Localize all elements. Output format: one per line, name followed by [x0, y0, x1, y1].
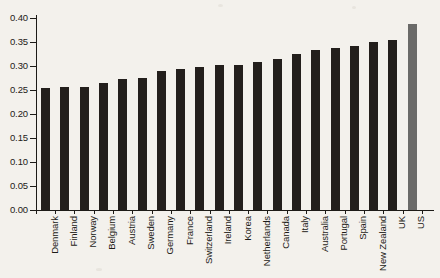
x-axis-category-label: Finland: [69, 216, 79, 246]
x-axis-tick: [403, 210, 404, 214]
x-axis-tick: [55, 210, 56, 214]
scan-artifact: [218, 4, 223, 7]
bar: [273, 59, 282, 210]
x-axis-category-label: Germany: [165, 216, 175, 254]
x-axis-tick: [248, 210, 249, 214]
bar: [369, 42, 378, 210]
x-axis-category-label: Spain: [358, 216, 368, 240]
x-axis-tick: [306, 210, 307, 214]
scan-artifact: [352, 6, 356, 9]
y-axis-tick-label: 0.15: [10, 133, 28, 143]
bar: [99, 83, 108, 210]
x-axis-tick: [287, 210, 288, 214]
x-axis-category-label: Italy: [300, 216, 310, 233]
x-axis-category-label: Denmark: [50, 216, 60, 254]
x-axis-category-label: Portugal: [339, 216, 349, 251]
bar-series: [36, 18, 434, 210]
bar: [157, 71, 166, 210]
bar: [253, 62, 262, 210]
x-axis-tick: [113, 210, 114, 214]
bar: [350, 46, 359, 210]
x-axis-category-label: Ireland: [223, 216, 233, 244]
x-axis-category-label: Netherlands: [262, 216, 272, 266]
x-axis-category-label: France: [185, 216, 195, 245]
scan-artifact: [96, 268, 102, 271]
bar: [311, 50, 320, 210]
x-axis-tick: [171, 210, 172, 214]
x-axis-tick: [345, 210, 346, 214]
y-axis-tick-label: 0.20: [10, 109, 28, 119]
bar: [388, 40, 397, 210]
x-axis-tick: [267, 210, 268, 214]
bar-chart: 0.000.050.100.150.200.250.300.350.40 Den…: [0, 0, 440, 278]
x-axis-category-label: Korea: [243, 216, 253, 241]
y-axis-tick-label: 0.25: [10, 85, 28, 95]
x-axis-tick: [94, 210, 95, 214]
bar: [234, 65, 243, 210]
x-axis-tick: [132, 210, 133, 214]
y-axis-tick-label: 0.00: [10, 205, 28, 215]
x-axis-tick: [36, 210, 37, 214]
x-axis-tick: [229, 210, 230, 214]
x-axis-category-label: Norway: [88, 216, 98, 248]
x-axis-tick: [422, 210, 423, 214]
bar: [195, 67, 204, 210]
x-axis-category-label: Switzerland: [204, 216, 214, 264]
x-axis-category-label: US: [416, 216, 426, 229]
bar: [118, 79, 127, 210]
x-axis-category-label: New Zealand: [378, 216, 388, 271]
y-axis-tick-label: 0.05: [10, 181, 28, 191]
x-axis-tick: [210, 210, 211, 214]
x-axis-category-label: Canada: [281, 216, 291, 249]
x-axis-tick: [383, 210, 384, 214]
bar: [292, 54, 301, 210]
x-axis-tick: [152, 210, 153, 214]
x-axis-category-label: UK: [397, 216, 407, 229]
x-axis-category-label: Austria: [127, 216, 137, 245]
x-axis-tick: [364, 210, 365, 214]
y-axis-tick-label: 0.10: [10, 157, 28, 167]
y-axis-tick-label: 0.40: [10, 13, 28, 23]
bar: [408, 24, 417, 210]
x-axis-category-label: Australia: [320, 216, 330, 252]
bar: [41, 88, 50, 210]
bar: [176, 69, 185, 210]
x-axis-tick: [325, 210, 326, 214]
bar: [215, 65, 224, 210]
y-axis-tick-label: 0.30: [10, 61, 28, 71]
x-axis-tick: [190, 210, 191, 214]
x-axis-line: [36, 210, 434, 211]
y-axis-tick-label: 0.35: [10, 37, 28, 47]
bar: [80, 87, 89, 210]
bar: [60, 87, 69, 210]
x-axis-category-label: Sweden: [146, 216, 156, 250]
x-axis-category-label: Belgium: [107, 216, 117, 250]
x-axis-tick: [74, 210, 75, 214]
bar: [331, 48, 340, 210]
bar: [138, 78, 147, 210]
